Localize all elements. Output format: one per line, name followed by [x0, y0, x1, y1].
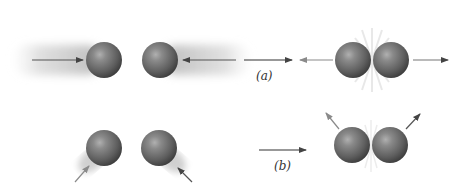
sphere [86, 42, 122, 78]
sphere [141, 130, 177, 166]
panel-label-b: (b) [274, 159, 291, 173]
sphere [335, 42, 371, 78]
panel-a-before [12, 42, 252, 78]
sphere [373, 42, 409, 78]
panel-b-before [73, 130, 192, 182]
sphere [86, 130, 122, 166]
arrow-up-left-icon [178, 168, 192, 182]
panel-label-a: (a) [256, 69, 273, 83]
panel-b-after [326, 113, 420, 172]
sphere [142, 42, 178, 78]
sphere [334, 127, 370, 163]
arrow-up-left-icon [326, 113, 339, 129]
arrow-up-right-icon [406, 114, 420, 129]
panel-a-after [300, 28, 448, 92]
sphere [372, 127, 408, 163]
collision-diagram [0, 0, 472, 184]
